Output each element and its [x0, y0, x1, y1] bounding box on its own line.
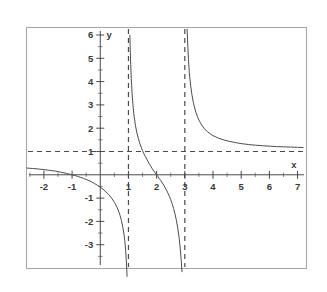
y-tick-label: 6 [88, 29, 93, 40]
x-tick-label: 2 [154, 181, 159, 192]
x-tick-label: -1 [68, 181, 77, 192]
x-tick-label: 5 [239, 181, 245, 192]
y-tick-label: -3 [85, 239, 93, 250]
y-tick-label: 2 [88, 123, 93, 134]
y-tick-label: 1 [88, 146, 94, 157]
y-tick-label: -2 [85, 216, 93, 227]
x-tick-label: 4 [210, 181, 216, 192]
graph-figure: -2-11234567 -3-2-1123456 x y [0, 0, 327, 292]
x-tick-label: -2 [40, 181, 48, 192]
x-tick-label: 3 [182, 181, 187, 192]
rational-function-plot: -2-11234567 -3-2-1123456 x y [0, 0, 327, 292]
y-tick-label: 3 [88, 99, 93, 110]
x-tick-label: 6 [267, 181, 272, 192]
x-tick-label: 7 [295, 181, 300, 192]
y-tick-label: 4 [88, 76, 94, 87]
plot-frame [27, 28, 307, 269]
y-tick-label: 5 [88, 53, 94, 64]
y-tick-label: -1 [85, 192, 94, 203]
x-tick-label: 1 [126, 181, 132, 192]
x-axis-label: x [291, 159, 297, 170]
y-axis-label: y [107, 29, 113, 40]
